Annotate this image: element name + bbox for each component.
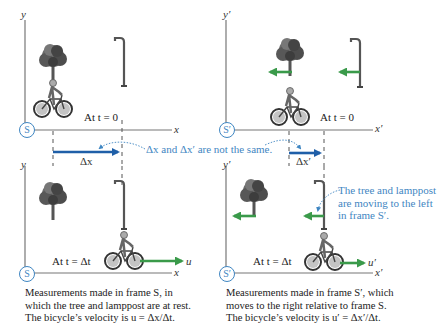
y-axis-label: y <box>21 158 26 170</box>
tree-icon <box>276 38 304 76</box>
frame-s-badge: S <box>19 122 35 138</box>
frame-s-prime-badge: S′ <box>219 266 235 282</box>
tree-icon <box>39 44 67 82</box>
delta-x-label: Δx <box>80 155 93 167</box>
tree-icon <box>240 179 268 217</box>
bicycle-icon <box>34 80 72 118</box>
delta-x-prime-label: Δx′ <box>296 155 311 167</box>
x-prime-axis-label: x′ <box>375 266 382 278</box>
y-axis-label: y <box>21 8 26 20</box>
y-prime-axis-label: y′ <box>223 158 230 170</box>
lamppost-icon <box>315 181 327 230</box>
lamppost-icon <box>115 38 127 87</box>
frame-s-prime-badge: S′ <box>219 122 235 138</box>
annotation-moving-left: The tree and lamppost are moving to the … <box>338 184 436 222</box>
caption-line: The bicycle’s velocity is u = Δx/Δt. <box>25 312 191 325</box>
caption-line: Measurements made in frame S, in <box>25 287 191 300</box>
caption-frame-s: Measurements made in frame S, in which t… <box>25 287 191 325</box>
bicycle-icon <box>305 233 343 271</box>
caption-line: The bicycle’s velocity is u′ = Δx′/Δt. <box>226 312 394 325</box>
y-prime-axis-label: y′ <box>223 8 230 20</box>
diagram-graphics <box>0 0 442 335</box>
time-label: At t = Δt <box>253 255 292 267</box>
velocity-u-prime-label: u′ <box>368 256 376 268</box>
tree-icon <box>39 182 67 220</box>
annotation-not-same: Δx and Δx′ are not the same. <box>146 143 272 156</box>
time-label: At t = 0 <box>84 111 118 123</box>
panel-bottom-left <box>25 166 182 273</box>
lamppost-icon <box>351 39 363 88</box>
bicycle-icon <box>271 88 309 126</box>
annotation-line: The tree and lamppost <box>338 184 436 197</box>
caption-line: moves to the right relative to frame S. <box>226 300 394 313</box>
annotation-pointer-moving <box>318 190 340 210</box>
frame-s-badge: S <box>19 266 35 282</box>
x-axis-label: x <box>174 123 179 135</box>
time-label: At t = 0 <box>320 111 354 123</box>
annotation-line: in frame S′. <box>338 209 436 222</box>
x-prime-axis-label: x′ <box>375 122 382 134</box>
velocity-u-label: u <box>186 255 192 267</box>
annotation-line: are moving to the left <box>338 197 436 210</box>
caption-frame-s-prime: Measurements made in frame S′, which mov… <box>226 287 394 325</box>
caption-line: which the tree and lamppost are at rest. <box>25 300 191 313</box>
caption-line: Measurements made in frame S′, which <box>226 287 394 300</box>
lamppost-icon <box>115 181 127 230</box>
time-label: At t = Δt <box>52 255 91 267</box>
bicycle-icon <box>105 232 143 270</box>
x-axis-label: x <box>174 266 179 278</box>
